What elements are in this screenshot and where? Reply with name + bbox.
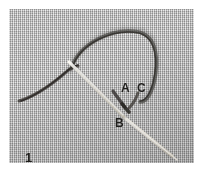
stitch-label-a: A bbox=[121, 82, 130, 94]
thread-strand-c bbox=[129, 93, 138, 108]
photo-frame: A C B 1 bbox=[9, 9, 194, 163]
thread-tail-left bbox=[19, 66, 78, 101]
figure-1-photograph: A C B 1 bbox=[0, 0, 202, 171]
stitch-illustration bbox=[9, 9, 194, 163]
stitch-label-b: B bbox=[115, 117, 124, 129]
stitch-label-c: C bbox=[137, 82, 146, 94]
figure-number: 1 bbox=[25, 151, 32, 163]
